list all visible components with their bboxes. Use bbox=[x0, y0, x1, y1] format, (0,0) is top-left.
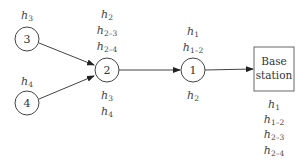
base-station: Base station bbox=[254, 47, 294, 91]
label-station-below-2: h2–3 bbox=[264, 129, 284, 142]
node-3: 3 bbox=[15, 27, 39, 51]
label-station-below-1: h1–2 bbox=[264, 114, 284, 127]
base-station-label-line1: Base bbox=[261, 55, 287, 67]
label-node1-below-0: h2 bbox=[187, 90, 199, 103]
node-4: 4 bbox=[15, 91, 39, 115]
label-node2-above-0: h2 bbox=[101, 9, 113, 22]
node-3-label: 3 bbox=[24, 33, 31, 46]
node-1: 1 bbox=[181, 58, 205, 82]
node-2-label: 2 bbox=[104, 64, 111, 77]
node-1-label: 1 bbox=[190, 64, 197, 77]
node-4-label: 4 bbox=[24, 97, 31, 110]
network-diagram: 3 4 2 1 Base station bbox=[0, 0, 308, 167]
label-node2-above-2: h2–4 bbox=[97, 41, 117, 54]
base-station-label-line2: station bbox=[256, 69, 293, 81]
label-station-below-0: h1 bbox=[268, 99, 280, 112]
label-node2-below-1: h4 bbox=[101, 106, 113, 119]
edge-3-to-2 bbox=[39, 43, 94, 65]
label-node2-above-1: h2–3 bbox=[97, 25, 117, 38]
label-h4-node4: h4 bbox=[21, 76, 33, 89]
edge-4-to-2 bbox=[39, 76, 94, 99]
label-station-below-3: h2–4 bbox=[264, 145, 284, 158]
label-h3-node3: h3 bbox=[21, 10, 33, 23]
label-node1-above-1: h1–2 bbox=[183, 42, 203, 55]
label-node1-above-0: h1 bbox=[187, 26, 199, 39]
label-node2-below-0: h3 bbox=[101, 90, 113, 103]
node-2: 2 bbox=[95, 58, 119, 82]
edge-1-to-base-station bbox=[205, 69, 253, 70]
